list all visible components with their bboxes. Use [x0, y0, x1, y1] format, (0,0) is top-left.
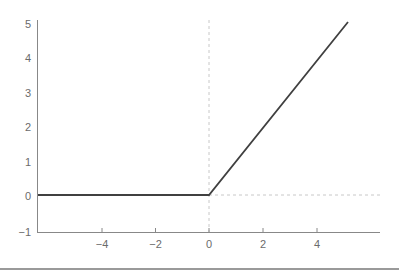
x-tick-label: −2	[149, 238, 162, 250]
x-tick-label: 0	[206, 238, 212, 250]
y-tick-label: −1	[18, 226, 31, 238]
x-tick-labels: −4 −2 0 2 4	[96, 238, 320, 250]
y-tick-labels: −1 0 1 2 3 4 5	[18, 18, 31, 238]
y-tick-label: 5	[25, 18, 31, 30]
y-tick-label: 0	[25, 190, 31, 202]
y-tick-label: 3	[25, 87, 31, 99]
y-tick-label: 1	[25, 156, 31, 168]
bottom-divider	[0, 268, 399, 270]
x-tick-label: 4	[314, 238, 320, 250]
y-tick-label: 4	[25, 52, 31, 64]
relu-chart: −4 −2 0 2 4 −1 0 1 2 3 4 5	[0, 0, 399, 272]
x-tick-label: 2	[260, 238, 266, 250]
x-tick-label: −4	[96, 238, 109, 250]
y-tick-label: 2	[25, 121, 31, 133]
x-ticks	[102, 228, 317, 232]
relu-series-line	[38, 22, 348, 195]
